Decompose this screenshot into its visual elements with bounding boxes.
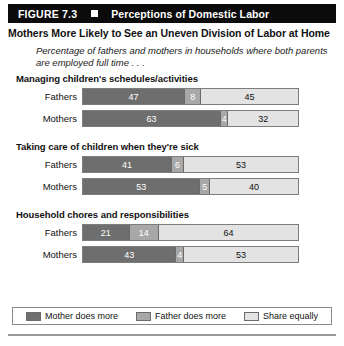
legend-label: Father does more <box>155 311 226 321</box>
chart-group-title: Household chores and responsibilities <box>16 209 344 220</box>
chart-bar-row: Mothers53540 <box>0 178 344 195</box>
bar-row-label: Mothers <box>0 181 82 192</box>
figure-number: FIGURE 7.3 <box>18 8 77 20</box>
bar-segment: 6 <box>171 157 184 172</box>
figure-container: FIGURE 7.3 Perceptions of Domestic Labor… <box>0 0 344 346</box>
legend-swatch <box>26 312 41 321</box>
legend-label: Mother does more <box>45 311 118 321</box>
chart-group-title: Taking care of children when they're sic… <box>16 141 344 152</box>
stacked-bar: 63432 <box>82 110 299 127</box>
stacked-bar: 47845 <box>82 88 299 105</box>
chart-bar-row: Fathers47845 <box>0 88 344 105</box>
chart-bar-row: Fathers211464 <box>0 224 344 241</box>
bar-row-label: Fathers <box>0 91 82 102</box>
bar-row-label: Fathers <box>0 227 82 238</box>
chart-subtitle: Percentage of fathers and mothers in hou… <box>36 45 336 68</box>
bar-row-label: Fathers <box>0 159 82 170</box>
stacked-bar: 41653 <box>82 156 299 173</box>
chart-plot-area: Managing children's schedules/activities… <box>0 73 344 268</box>
legend-item: Father does more <box>136 311 226 321</box>
chart-legend: Mother does moreFather does moreShare eq… <box>12 307 332 325</box>
stacked-bar: 43453 <box>82 246 299 263</box>
bar-segment: 47 <box>83 89 184 104</box>
bar-segment: 53 <box>184 157 298 172</box>
bar-row-label: Mothers <box>0 113 82 124</box>
legend-item: Mother does more <box>26 311 118 321</box>
group-spacer <box>0 200 344 209</box>
chart-group: Managing children's schedules/activities… <box>0 73 344 127</box>
chart-group: Taking care of children when they're sic… <box>0 141 344 195</box>
bar-segment: 14 <box>129 225 159 240</box>
bar-segment: 32 <box>228 111 297 126</box>
bar-segment: 53 <box>83 179 199 194</box>
bar-segment: 5 <box>199 179 210 194</box>
bottom-divider <box>8 334 336 336</box>
bar-segment: 40 <box>210 179 298 194</box>
bar-segment: 21 <box>83 225 129 240</box>
bar-segment: 43 <box>83 247 175 262</box>
legend-item: Share equally <box>244 311 318 321</box>
bar-segment: 4 <box>220 111 229 126</box>
bar-segment: 4 <box>175 247 184 262</box>
bar-segment: 45 <box>201 89 298 104</box>
chart-bar-row: Fathers41653 <box>0 156 344 173</box>
chart-group: Household chores and responsibilitiesFat… <box>0 209 344 263</box>
chart-headline: Mothers More Likely to See an Uneven Div… <box>8 27 338 40</box>
legend-swatch <box>136 312 151 321</box>
chart-bar-row: Mothers63432 <box>0 110 344 127</box>
bar-segment: 64 <box>159 225 298 240</box>
bar-segment: 8 <box>184 89 201 104</box>
stacked-bar: 211464 <box>82 224 299 241</box>
chart-bar-row: Mothers43453 <box>0 246 344 263</box>
bar-row-label: Mothers <box>0 249 82 260</box>
legend-swatch <box>244 312 259 321</box>
figure-title: Perceptions of Domestic Labor <box>111 8 269 20</box>
bar-segment: 53 <box>184 247 298 262</box>
bar-segment: 41 <box>83 157 171 172</box>
group-spacer <box>0 132 344 141</box>
chart-group-title: Managing children's schedules/activities <box>16 73 344 84</box>
stacked-bar: 53540 <box>82 178 299 195</box>
figure-header-bar: FIGURE 7.3 Perceptions of Domestic Labor <box>8 4 336 23</box>
square-bullet-icon <box>91 10 98 17</box>
bar-segment: 63 <box>83 111 220 126</box>
legend-label: Share equally <box>263 311 318 321</box>
